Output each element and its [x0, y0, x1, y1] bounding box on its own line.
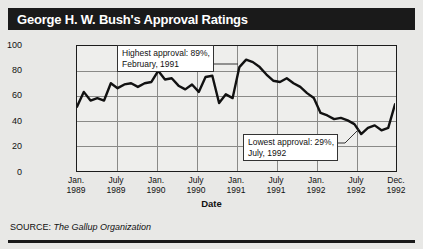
source-note: SOURCE: The Gallup Organization	[10, 222, 151, 232]
annotation-high-line1: Highest approval: 89%,	[122, 48, 210, 59]
x-tick-year: 1992	[373, 185, 419, 195]
y-tick-100: 100	[0, 41, 22, 50]
title-band: George H. W. Bush's Approval Ratings	[8, 8, 415, 30]
bottom-rule	[8, 240, 415, 243]
y-tick-40: 40	[0, 117, 22, 126]
page-title: George H. W. Bush's Approval Ratings	[8, 12, 248, 27]
y-tick-0: 0	[0, 168, 22, 177]
annotation-low-line1: Lowest approval: 29%,	[248, 137, 334, 148]
chart-figure: George H. W. Bush's Approval Ratings Per…	[0, 0, 423, 249]
annotation-highest-approval: Highest approval: 89%, February, 1991	[117, 45, 214, 72]
annotation-high-line2: February, 1991	[122, 59, 210, 70]
y-tick-60: 60	[0, 91, 22, 100]
annotation-low-line2: July, 1992	[248, 148, 334, 159]
annotation-lowest-approval: Lowest approval: 29%, July, 1992	[243, 134, 338, 161]
source-prefix: SOURCE:	[10, 222, 51, 232]
x-tick-dec-1992: Dec. 1992	[373, 175, 419, 195]
y-tick-20: 20	[0, 142, 22, 151]
x-axis-label: Date	[0, 198, 423, 209]
x-tick-month: Dec.	[373, 175, 419, 185]
y-tick-80: 80	[0, 66, 22, 75]
source-organization: The Gallup Organization	[54, 222, 152, 232]
